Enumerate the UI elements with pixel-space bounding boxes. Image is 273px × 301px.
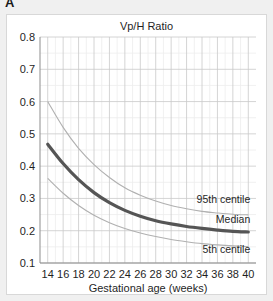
y-tick-label: 0.6	[20, 96, 35, 108]
chart-plot-area: 0.10.20.30.40.50.60.70.8 141618202224262…	[7, 15, 268, 296]
panel-letter: A	[5, 0, 14, 9]
x-tick-label: 32	[180, 268, 192, 280]
figure-card: Vp/H Ratio 0.10.20.30.40.50.60.70.8 1416…	[6, 14, 267, 295]
y-tick-label: 0.3	[20, 192, 35, 204]
y-tick-label: 0.7	[20, 63, 35, 75]
x-tick-label: 34	[196, 268, 208, 280]
annotation-median: Median	[216, 213, 251, 225]
x-tick-label: 24	[119, 268, 131, 280]
annotation-5th-centile: 5th centile	[202, 243, 250, 255]
x-tick-label: 30	[165, 268, 177, 280]
y-tick-label: 0.1	[20, 257, 35, 269]
x-tick-label: 26	[134, 268, 146, 280]
x-tick-label: 18	[72, 268, 84, 280]
x-tick-label: 14	[42, 268, 54, 280]
chart-svg: 0.10.20.30.40.50.60.70.8 141618202224262…	[7, 15, 268, 296]
x-tick-label: 36	[211, 268, 223, 280]
x-tick-label: 38	[227, 268, 239, 280]
y-axis-tick-labels: 0.10.20.30.40.50.60.70.8	[20, 31, 35, 269]
y-tick-label: 0.5	[20, 128, 35, 140]
y-tick-label: 0.4	[20, 160, 35, 172]
x-tick-label: 22	[103, 268, 115, 280]
x-axis-title: Gestational age (weeks)	[89, 282, 208, 294]
x-axis-tick-labels: 1416182022242628303234363840	[42, 268, 255, 280]
y-tick-label: 0.8	[20, 31, 35, 43]
x-tick-label: 20	[88, 268, 100, 280]
x-tick-label: 16	[57, 268, 69, 280]
x-tick-label: 28	[150, 268, 162, 280]
annotation-95th-centile: 95th centile	[197, 193, 251, 205]
x-tick-label: 40	[242, 268, 254, 280]
y-tick-label: 0.2	[20, 225, 35, 237]
